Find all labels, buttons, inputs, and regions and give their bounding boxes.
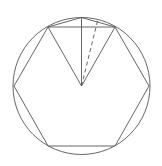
- hexagon-circle-diagram: [0, 0, 162, 166]
- radius-right: [82, 27, 116, 86]
- chord-left: [48, 18, 82, 28]
- radius-left: [48, 27, 82, 86]
- dashed-radius: [82, 19, 99, 86]
- chord-right: [82, 18, 116, 28]
